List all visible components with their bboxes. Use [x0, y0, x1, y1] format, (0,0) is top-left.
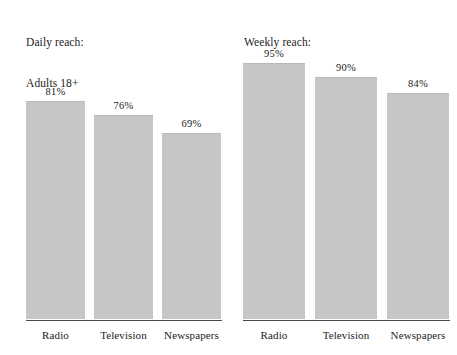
x-tick-label-television: Television [94, 329, 153, 341]
bar-radio [26, 101, 85, 319]
bar-value-label-television: 90% [336, 62, 356, 74]
chart-panel-weekly-reach: Weekly reach: Adults 18+ 95% 90% 84% [232, 0, 457, 355]
bar-chart-figure: Daily reach: Adults 18+ 81% 76% 69% [0, 0, 457, 355]
bar-television [315, 77, 377, 319]
x-tick-label-newspapers: Newspapers [162, 329, 221, 341]
x-axis-tick-labels: Radio Television Newspapers [26, 329, 221, 341]
bar-slot-television: 76% [94, 36, 153, 319]
bar-value-label-radio: 81% [46, 86, 66, 98]
x-tick-label-radio: Radio [243, 329, 305, 341]
plot-area-weekly: 95% 90% 84% [243, 36, 449, 319]
bar-slot-newspapers: 84% [387, 36, 449, 319]
bar-value-label-television: 76% [114, 100, 134, 112]
x-axis-line [243, 320, 450, 321]
chart-panel-daily-reach: Daily reach: Adults 18+ 81% 76% 69% [0, 0, 232, 355]
bar-slot-radio: 81% [26, 36, 85, 319]
bar-newspapers [387, 93, 449, 319]
x-tick-label-television: Television [315, 329, 377, 341]
bar-value-label-newspapers: 84% [408, 78, 428, 90]
bar-television [94, 115, 153, 319]
bar-slot-radio: 95% [243, 36, 305, 319]
bar-value-label-radio: 95% [264, 48, 284, 60]
bar-radio [243, 63, 305, 319]
bar-slot-television: 90% [315, 36, 377, 319]
x-axis-tick-labels: Radio Television Newspapers [243, 329, 449, 341]
x-tick-label-newspapers: Newspapers [387, 329, 449, 341]
bar-newspapers [162, 133, 221, 319]
x-tick-label-radio: Radio [26, 329, 85, 341]
bar-group-daily: 81% 76% 69% [26, 36, 221, 319]
x-axis-line [26, 320, 222, 321]
bar-value-label-newspapers: 69% [182, 118, 202, 130]
bar-group-weekly: 95% 90% 84% [243, 36, 449, 319]
bar-slot-newspapers: 69% [162, 36, 221, 319]
plot-area-daily: 81% 76% 69% [26, 36, 221, 319]
